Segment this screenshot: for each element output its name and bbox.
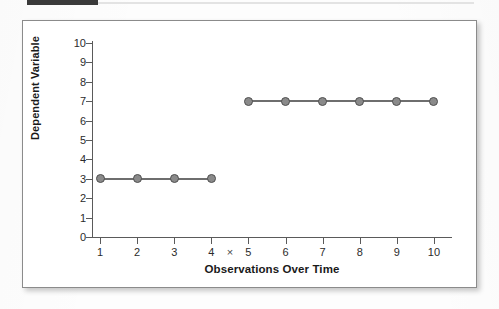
y-tick-6 (86, 121, 92, 122)
x-tick-label-9: 9 (384, 246, 410, 258)
x-axis-title: Observations Over Time (92, 263, 452, 275)
y-tick-3 (86, 179, 92, 180)
x-tick-2 (137, 238, 138, 244)
header-rule (98, 2, 474, 4)
x-tick-10 (434, 238, 435, 244)
y-tick-label-8: 8 (64, 77, 86, 88)
y-tick-8 (86, 82, 92, 83)
data-point (281, 97, 290, 106)
y-tick-label-wrap-5: 5 (58, 140, 86, 141)
y-tick-5 (86, 140, 92, 141)
x-tick-label-10: 10 (421, 246, 447, 258)
x-tick-label-6: 6 (273, 246, 299, 258)
y-tick-label-wrap-4: 4 (58, 159, 86, 160)
y-tick-label-0: 0 (64, 232, 86, 243)
data-point (133, 174, 142, 183)
y-tick-9 (86, 62, 92, 63)
series-1-segment (323, 100, 360, 102)
y-tick-label-5: 5 (64, 135, 86, 146)
x-axis-line (92, 237, 452, 238)
y-tick-label-2: 2 (64, 193, 86, 204)
x-tick-8 (360, 238, 361, 244)
y-tick-label-wrap-7: 7 (58, 101, 86, 102)
y-axis-line (92, 41, 93, 238)
x-tick-7 (323, 238, 324, 244)
y-tick-2 (86, 198, 92, 199)
series-1-segment (397, 100, 434, 102)
y-tick-label-1: 1 (64, 213, 86, 224)
series-0-segment (100, 178, 137, 180)
data-point (244, 97, 253, 106)
x-tick-label-7: 7 (310, 246, 336, 258)
y-tick-label-6: 6 (64, 116, 86, 127)
series-1-segment (360, 100, 397, 102)
data-point (392, 97, 401, 106)
y-tick-10 (86, 43, 92, 44)
x-tick-label-3: 3 (161, 246, 187, 258)
y-tick-label-wrap-9: 9 (58, 62, 86, 63)
x-tick-1 (100, 238, 101, 244)
y-tick-label-wrap-8: 8 (58, 82, 86, 83)
x-tick-5 (248, 238, 249, 244)
y-axis-title: Dependent Variable (29, 28, 41, 148)
data-point (170, 174, 179, 183)
y-tick-label-wrap-0: 0 (58, 237, 86, 238)
y-tick-label-10: 10 (64, 38, 86, 49)
data-point (96, 174, 105, 183)
data-point (355, 97, 364, 106)
x-tick-label-8: 8 (347, 246, 373, 258)
series-0-segment (137, 178, 174, 180)
y-tick-7 (86, 101, 92, 102)
series-1-segment (286, 100, 323, 102)
x-tick-3 (174, 238, 175, 244)
data-point (318, 97, 327, 106)
header-bar (27, 0, 98, 5)
y-tick-label-wrap-3: 3 (58, 179, 86, 180)
y-tick-label-9: 9 (64, 57, 86, 68)
x-tick-label-1: 1 (87, 246, 113, 258)
y-tick-label-7: 7 (64, 96, 86, 107)
y-tick-4 (86, 159, 92, 160)
y-tick-label-wrap-10: 10 (58, 43, 86, 44)
y-tick-0 (86, 237, 92, 238)
intervention-marker: × (217, 246, 243, 258)
series-1-segment (248, 100, 285, 102)
x-tick-label-2: 2 (124, 246, 150, 258)
x-tick-6 (286, 238, 287, 244)
y-tick-label-3: 3 (64, 174, 86, 185)
y-tick-label-wrap-2: 2 (58, 198, 86, 199)
series-0-segment (174, 178, 211, 180)
y-tick-1 (86, 218, 92, 219)
y-tick-label-wrap-6: 6 (58, 121, 86, 122)
x-tick-9 (397, 238, 398, 244)
y-tick-label-wrap-1: 1 (58, 218, 86, 219)
y-tick-label-4: 4 (64, 154, 86, 165)
x-tick-4 (211, 238, 212, 244)
